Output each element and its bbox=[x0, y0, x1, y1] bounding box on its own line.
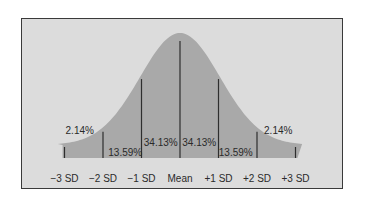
x-tick-label: −2 SD bbox=[89, 173, 117, 184]
segment-percent-label: 13.59% bbox=[219, 147, 253, 158]
x-tick-label: −3 SD bbox=[50, 173, 78, 184]
segment-percent-label: 34.13% bbox=[144, 137, 178, 148]
x-tick-label: +2 SD bbox=[243, 173, 271, 184]
normal-distribution-chart: 2.14%13.59%34.13%34.13%13.59%2.14% −3 SD… bbox=[0, 0, 367, 206]
segment-percent-label: 13.59% bbox=[108, 147, 142, 158]
segment-percent-label: 34.13% bbox=[182, 137, 216, 148]
x-tick-label: −1 SD bbox=[127, 173, 155, 184]
x-tick-label: Mean bbox=[167, 173, 192, 184]
x-tick-label: +3 SD bbox=[281, 173, 309, 184]
segment-percent-label: 2.14% bbox=[264, 125, 292, 136]
x-tick-label: +1 SD bbox=[204, 173, 232, 184]
segment-percent-label: 2.14% bbox=[66, 125, 94, 136]
